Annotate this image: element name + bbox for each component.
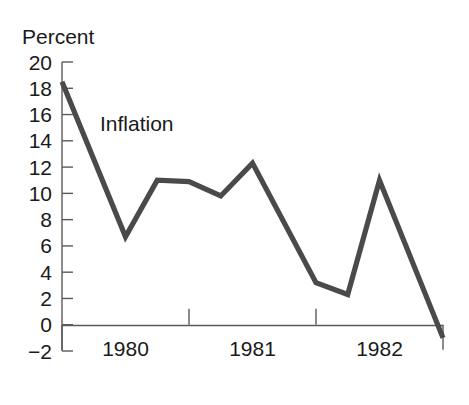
inflation-line-chart: Percent −202468101214161820 198019811982… xyxy=(0,0,469,405)
y-axis-tick-labels: −202468101214161820 xyxy=(28,51,52,363)
y-axis-tick-label: 12 xyxy=(29,156,52,179)
y-axis-tick-label: 4 xyxy=(40,261,52,284)
y-axis-tick-label: 20 xyxy=(29,51,52,74)
y-axis-tick-label: 8 xyxy=(40,208,52,231)
y-axis-tick-label: 14 xyxy=(29,129,53,152)
y-axis-tick-label: 2 xyxy=(40,287,52,310)
y-axis-tick-label: −2 xyxy=(28,340,52,363)
inflation-series-label: Inflation xyxy=(100,112,174,135)
x-axis-tick-label: 1982 xyxy=(356,337,403,360)
x-axis-tick-label: 1981 xyxy=(229,337,276,360)
y-axis-unit-label: Percent xyxy=(22,25,95,48)
x-axis-tick-labels: 198019811982 xyxy=(102,337,403,360)
chart-canvas: Percent −202468101214161820 198019811982… xyxy=(0,0,469,405)
y-axis-tick-label: 0 xyxy=(40,313,52,336)
x-axis-tick-label: 1980 xyxy=(102,337,149,360)
y-axis-tick-label: 10 xyxy=(29,182,52,205)
y-axis-tick-label: 18 xyxy=(29,77,52,100)
y-axis-tick-label: 16 xyxy=(29,103,52,126)
y-axis-tick-label: 6 xyxy=(40,234,52,257)
